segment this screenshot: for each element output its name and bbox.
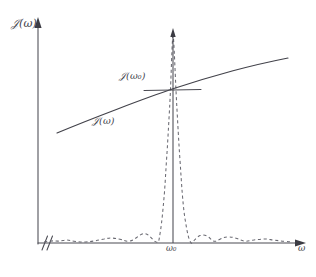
sinc-filter-curve: [44, 33, 292, 243]
omega0-arrowhead: [170, 28, 175, 37]
x-axis-label: ω: [298, 244, 305, 253]
y-axis-label: 𝒥(ω): [11, 18, 37, 29]
figure-container: 𝒥(ω) 𝒥(ω₀) 𝒥(ω) ω₀ ω: [0, 0, 316, 277]
plot-canvas: [0, 0, 316, 277]
y-axis-group: [34, 17, 41, 244]
j-omega0-label: 𝒥(ω₀): [119, 71, 145, 81]
spectral-density-curve-label: 𝒥(ω): [92, 116, 115, 126]
omega0-tick-label: ω₀: [166, 244, 177, 253]
j-omega0-level-line: [144, 90, 201, 91]
